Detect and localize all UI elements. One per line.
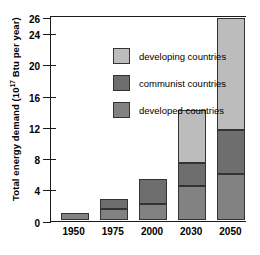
bar-segment-communist [139, 179, 167, 204]
energy-demand-chart: Total energy demand (1017 Btu per year) … [0, 0, 260, 255]
bar-1950 [61, 213, 89, 220]
legend-label: communist countries [139, 78, 226, 89]
y-axis-tick-inner [51, 190, 56, 191]
y-axis-tick-inner [51, 65, 56, 66]
y-axis-tick: 26 [43, 18, 51, 19]
y-axis-tick-inner [51, 34, 56, 35]
plot-area: 0481216202426 developing countriescommun… [50, 16, 246, 222]
y-axis-tick-label: 8 [34, 155, 40, 166]
bar-1975 [100, 199, 128, 219]
legend-label: developed countries [139, 105, 224, 116]
legend-item: developing countries [113, 45, 226, 67]
y-axis-tick-inner [51, 128, 56, 129]
y-axis-tick: 20 [43, 65, 51, 66]
legend-swatch-developing [113, 48, 130, 64]
y-axis-tick-label: 20 [29, 61, 40, 72]
bar-segment-communist [100, 199, 128, 208]
y-axis-title: Total energy demand (1017 Btu per year) [9, 9, 21, 209]
bar-segment-developed [100, 209, 128, 220]
bar-2000 [139, 179, 167, 220]
bar-segment-developed [139, 204, 167, 220]
bar-segment-developed [178, 186, 206, 220]
y-axis-title-prefix: Total energy demand (10 [10, 87, 21, 201]
legend-item: developed countries [113, 99, 226, 121]
y-axis-tick-label: 26 [29, 14, 40, 25]
bar-segment-communist [178, 163, 206, 186]
y-axis-tick-label: 24 [29, 30, 40, 41]
y-axis-tick-label: 4 [34, 186, 40, 197]
bar-2030 [178, 110, 206, 219]
bar-segment-developed [217, 174, 245, 219]
bar-segment-communist [217, 130, 245, 175]
y-axis-tick: 8 [43, 159, 51, 160]
y-axis-tick: 12 [43, 128, 51, 129]
y-axis-tick-inner [51, 97, 56, 98]
y-axis-tick-label: 12 [29, 123, 40, 134]
x-axis-label-2050: 2050 [219, 226, 241, 237]
y-axis-title-suffix: Btu per year) [10, 17, 21, 80]
legend: developing countriescommunist countriesd… [113, 45, 226, 126]
bar-segment-developed [61, 213, 89, 220]
y-axis-tick: 24 [43, 34, 51, 35]
y-axis-tick-label: 16 [29, 92, 40, 103]
y-axis-tick-inner [51, 159, 56, 160]
y-axis-title-exponent: 17 [9, 80, 16, 87]
legend-swatch-developed [113, 102, 130, 118]
legend-label: developing countries [139, 51, 226, 62]
x-axis-label-2030: 2030 [180, 226, 202, 237]
legend-item: communist countries [113, 72, 226, 94]
legend-swatch-communist [113, 75, 130, 91]
y-axis-tick-label: 0 [34, 217, 40, 228]
x-axis-label-1975: 1975 [102, 226, 124, 237]
y-axis-title-container: Total energy demand (1017 Btu per year) [0, 0, 22, 232]
x-axis-label-1950: 1950 [62, 226, 84, 237]
y-axis-tick: 0 [43, 222, 51, 223]
y-axis-tick: 16 [43, 97, 51, 98]
x-axis-label-2000: 2000 [141, 226, 163, 237]
y-axis-tick: 4 [43, 190, 51, 191]
